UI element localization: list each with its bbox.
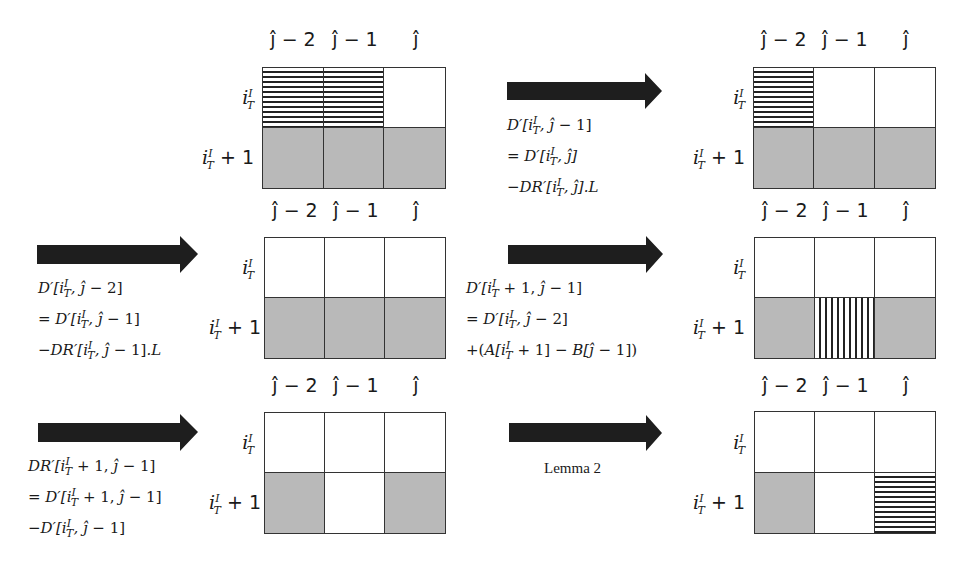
transition-equation-1: D′[iIT, ĵ − 1] = D′[iIT, ĵ] −DR′[iIT, ĵ]… <box>507 110 598 203</box>
dp-grid <box>264 237 446 359</box>
cell-r2-c2 <box>815 298 875 358</box>
row-label-i: iIT <box>733 256 745 282</box>
transition-equation-3: D′[iIT + 1, ĵ − 1] = D′[iIT, ĵ − 2] +(A[… <box>466 273 637 366</box>
cell-r2-c3 <box>875 128 935 188</box>
transition-equation-4: DR′[iIT + 1, ĵ − 1] = D′[iIT + 1, ĵ − 1]… <box>28 451 162 544</box>
row-label-i: iIT <box>242 431 254 457</box>
cell-r1-c2 <box>324 68 385 128</box>
cell-r2-c3 <box>384 128 445 188</box>
col-header-j-minus-1: ĵ − 1 <box>325 374 387 396</box>
cell-r2-c2 <box>325 298 385 358</box>
cell-r2-c1 <box>265 473 325 533</box>
cell-r1-c3 <box>875 238 935 298</box>
cell-r2-c3 <box>875 298 935 358</box>
col-header-j-minus-1: ĵ − 1 <box>814 28 876 50</box>
cell-r1-c1 <box>755 412 815 473</box>
col-header-j: ĵ <box>875 199 937 221</box>
col-header-j-minus-2: ĵ − 2 <box>264 374 326 396</box>
right-arrow-icon <box>37 236 199 273</box>
cell-r1-c1 <box>263 68 324 128</box>
col-header-j-minus-2: ĵ − 2 <box>754 374 816 396</box>
col-header-j-minus-1: ĵ − 1 <box>815 374 877 396</box>
cell-r1-c2 <box>815 238 875 298</box>
cell-r1-c3 <box>385 413 445 473</box>
col-header-j-minus-1: ĵ − 1 <box>325 199 387 221</box>
row-label-i: iIT <box>733 86 745 112</box>
cell-r1-c1 <box>755 238 815 298</box>
row-label-i-plus-1: iIT + 1 <box>693 491 745 517</box>
col-header-j-minus-2: ĵ − 2 <box>753 28 815 50</box>
col-header-j: ĵ <box>385 199 447 221</box>
cell-r1-c1 <box>265 413 325 473</box>
cell-r1-c1 <box>265 238 325 298</box>
right-arrow-icon <box>507 73 663 109</box>
row-label-i-plus-1: iIT + 1 <box>693 146 745 172</box>
cell-r1-c2 <box>325 413 385 473</box>
col-header-j-minus-2: ĵ − 2 <box>262 28 324 50</box>
dp-grid <box>754 411 936 534</box>
cell-r1-c2 <box>815 412 875 473</box>
dp-grid <box>754 237 936 359</box>
row-label-i-plus-1: iIT + 1 <box>693 316 745 342</box>
cell-r1-c3 <box>875 412 935 473</box>
right-arrow-icon <box>509 415 663 451</box>
cell-r2-c3 <box>875 473 935 534</box>
col-header-j: ĵ <box>875 28 937 50</box>
row-label-i: iIT <box>242 256 254 282</box>
col-header-j-minus-2: ĵ − 2 <box>264 199 326 221</box>
cell-r2-c3 <box>385 298 445 358</box>
row-label-i: iIT <box>242 86 254 112</box>
cell-r2-c2 <box>324 128 385 188</box>
col-header-j: ĵ <box>875 374 937 396</box>
cell-r2-c1 <box>263 128 324 188</box>
row-label-i: iIT <box>733 431 745 457</box>
dp-grid <box>262 67 446 189</box>
col-header-j-minus-2: ĵ − 2 <box>754 199 816 221</box>
cell-r1-c3 <box>385 238 445 298</box>
cell-r2-c2 <box>325 473 385 533</box>
dp-grid <box>753 67 936 189</box>
cell-r2-c3 <box>385 473 445 533</box>
cell-r1-c1 <box>754 68 814 128</box>
cell-r1-c3 <box>384 68 445 128</box>
cell-r2-c1 <box>754 128 814 188</box>
right-arrow-icon <box>508 236 664 273</box>
cell-r1-c2 <box>325 238 385 298</box>
cell-r1-c3 <box>875 68 935 128</box>
col-header-j-minus-1: ĵ − 1 <box>815 199 877 221</box>
cell-r2-c1 <box>755 298 815 358</box>
row-label-i-plus-1: iIT + 1 <box>209 491 261 517</box>
lemma-label: Lemma 2 <box>544 460 601 477</box>
row-label-i-plus-1: iIT + 1 <box>202 146 254 172</box>
dp-grid <box>264 412 446 534</box>
cell-r2-c1 <box>265 298 325 358</box>
cell-r2-c2 <box>814 128 874 188</box>
right-arrow-icon <box>38 414 199 451</box>
col-header-j-minus-1: ĵ − 1 <box>324 28 386 50</box>
cell-r2-c1 <box>755 473 815 534</box>
col-header-j: ĵ <box>385 374 447 396</box>
cell-r1-c2 <box>814 68 874 128</box>
row-label-i-plus-1: iIT + 1 <box>209 316 261 342</box>
col-header-j: ĵ <box>385 28 447 50</box>
cell-r2-c2 <box>815 473 875 534</box>
transition-equation-2: D′[iIT, ĵ − 2] = D′[iIT, ĵ − 1] −DR′[iIT… <box>38 273 161 366</box>
